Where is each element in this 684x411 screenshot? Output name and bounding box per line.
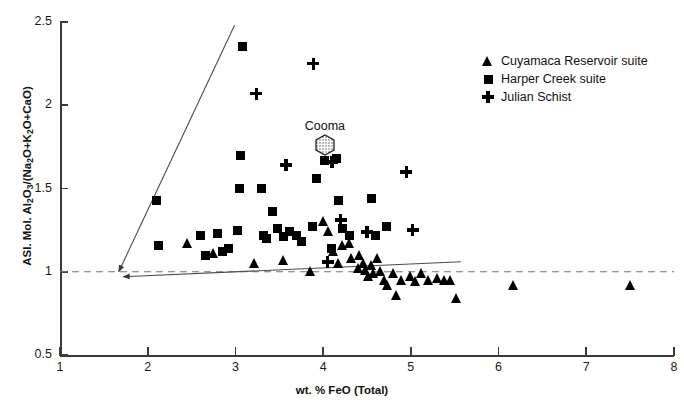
x-tick-label: 6 [484, 361, 514, 374]
data-point-triangle [508, 280, 518, 290]
data-point-plus [322, 256, 334, 268]
x-axis-title: wt. % FeO (Total) [0, 384, 684, 396]
data-point-square [236, 151, 245, 160]
y-title-part: /(Na [21, 163, 33, 185]
legend-item-plus[interactable]: Julian Schist [480, 88, 648, 106]
y-title-part: O+K [21, 134, 33, 158]
data-point-triangle [451, 293, 461, 303]
cooma-annotation-label: Cooma [305, 119, 345, 133]
y-tick [60, 354, 68, 356]
x-tick-label: 5 [396, 361, 426, 374]
y-title-part: O [21, 189, 33, 198]
plus-icon [480, 89, 496, 105]
x-tick [585, 347, 587, 356]
y-title-sub: 2 [25, 129, 35, 134]
data-point-triangle [372, 253, 382, 263]
data-point-square [238, 42, 247, 51]
asi-vs-feo-scatter-chart: 2.521.510.5 12345678 Cooma wt. % FeO (To… [0, 0, 684, 411]
x-tick-label: 8 [659, 361, 684, 374]
x-tick [59, 347, 61, 356]
data-point-square [224, 244, 233, 253]
data-point-square [367, 194, 376, 203]
data-point-square [327, 244, 336, 253]
x-tick [673, 347, 675, 356]
data-point-triangle [382, 280, 392, 290]
data-point-square [382, 222, 391, 231]
y-title-sub: 2 [25, 158, 35, 163]
data-point-triangle [278, 255, 288, 265]
data-point-square [154, 241, 163, 250]
cooma-hexagon-icon [313, 133, 337, 161]
y-title-part: ASI. Mol. Al [21, 203, 33, 266]
triangle-glyph [482, 56, 492, 66]
data-point-square [196, 231, 205, 240]
x-tick [147, 347, 149, 356]
data-point-square [257, 184, 266, 193]
legend-item-label: Cuyamaca Reservoir suite [501, 54, 648, 68]
y-tick [60, 188, 68, 190]
plus-glyph [482, 91, 494, 103]
data-point-square [152, 196, 161, 205]
data-point-plus [280, 159, 292, 171]
y-title-sub: 3 [25, 185, 35, 190]
data-point-triangle [182, 238, 192, 248]
data-point-square [235, 184, 244, 193]
y-tick [60, 104, 68, 106]
legend-item-square[interactable]: Harper Creek suite [480, 70, 648, 88]
square-glyph [484, 75, 493, 84]
data-point-square [262, 234, 271, 243]
y-axis-title: ASI. Mol. Al2O3/(Na2O+K2O+CaO) [21, 1, 33, 351]
chart-legend: Cuyamaca Reservoir suiteHarper Creek sui… [480, 52, 648, 106]
x-tick-label: 7 [571, 361, 601, 374]
data-point-square [308, 222, 317, 231]
data-point-square [345, 231, 354, 240]
data-point-triangle [323, 226, 333, 236]
x-tick [410, 347, 412, 356]
data-point-square [233, 226, 242, 235]
legend-item-label: Harper Creek suite [501, 72, 606, 86]
y-title-sub: 2 [25, 198, 35, 203]
data-point-plus [307, 58, 319, 70]
x-tick [498, 347, 500, 356]
data-point-plus [335, 214, 347, 226]
data-point-triangle [333, 258, 343, 268]
square-icon [480, 71, 496, 87]
x-tick [235, 347, 237, 356]
data-point-square [201, 251, 210, 260]
data-point-square [334, 196, 343, 205]
x-tick-label: 3 [220, 361, 250, 374]
legend-item-triangle[interactable]: Cuyamaca Reservoir suite [480, 52, 648, 70]
data-point-square [268, 207, 277, 216]
data-point-triangle [249, 258, 259, 268]
data-point-plus [361, 226, 373, 238]
data-point-plus [407, 224, 419, 236]
y-tick [60, 21, 68, 23]
data-point-triangle [305, 266, 315, 276]
data-point-triangle [445, 275, 455, 285]
legend-item-label: Julian Schist [501, 90, 571, 104]
x-tick-label: 4 [308, 361, 338, 374]
y-tick [60, 271, 68, 273]
triangle-icon [480, 53, 496, 69]
data-point-square [312, 174, 321, 183]
data-point-triangle [391, 290, 401, 300]
data-point-plus [400, 166, 412, 178]
data-point-triangle [318, 216, 328, 226]
x-tick-label: 1 [45, 361, 75, 374]
y-title-part: O+CaO) [21, 86, 33, 129]
x-axis-line [60, 355, 674, 357]
data-point-square [297, 237, 306, 246]
x-tick-label: 2 [133, 361, 163, 374]
data-point-plus [250, 88, 262, 100]
x-tick [322, 347, 324, 356]
data-point-triangle [625, 280, 635, 290]
data-point-square [213, 229, 222, 238]
